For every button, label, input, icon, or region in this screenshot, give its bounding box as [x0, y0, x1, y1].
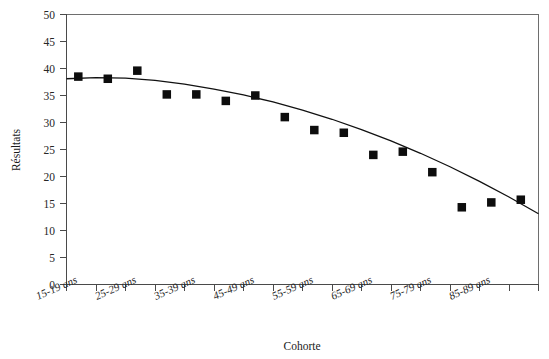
x-tick-label: 45-49 ans — [211, 273, 256, 302]
y-tick-label: 45 — [44, 36, 56, 48]
y-tick-label: 20 — [44, 171, 56, 183]
scatter-marker — [104, 75, 113, 84]
x-tick-label: 75-79 ans — [388, 273, 433, 302]
x-tick-label: 65-69 ans — [329, 273, 374, 302]
x-tick-label: 15-19 ans — [34, 273, 79, 302]
scatter-marker — [369, 151, 378, 160]
scatter-marker — [340, 129, 349, 138]
scatter-marker — [192, 90, 201, 99]
scatter-marker — [74, 72, 83, 81]
scatter-marker — [222, 97, 231, 106]
y-tick-label: 40 — [44, 63, 56, 75]
scatter-marker — [251, 91, 259, 100]
scatter-marker-group — [74, 66, 525, 211]
y-tick-label: 50 — [44, 9, 56, 21]
y-tick-label: 15 — [44, 198, 56, 210]
chart-svg: 50 45 40 35 30 25 20 15 10 5 0 Résultats — [0, 0, 549, 359]
scatter-marker — [281, 113, 290, 122]
scatter-marker — [163, 90, 172, 99]
x-axis-title: Cohorte — [283, 340, 320, 352]
x-tick-label: 35-39 ans — [151, 273, 197, 302]
plot-frame — [66, 15, 539, 285]
x-axis-category-labels: 15-19 ans 25-29 ans 35-39 ans 45-49 ans … — [34, 273, 492, 302]
scatter-marker — [517, 195, 526, 204]
y-tick-label: 5 — [49, 252, 55, 264]
scatter-marker — [428, 168, 437, 177]
trend-curve — [67, 78, 539, 214]
y-axis-tick-labels: 50 45 40 35 30 25 20 15 10 5 0 — [44, 9, 56, 291]
scatter-marker — [399, 147, 408, 156]
y-tick-label: 25 — [44, 144, 56, 156]
x-axis: 15-19 ans 25-29 ans 35-39 ans 45-49 ans … — [34, 273, 539, 352]
scatter-marker — [310, 126, 319, 135]
scatter-marker — [133, 66, 142, 75]
y-axis: 50 45 40 35 30 25 20 15 10 5 0 Résultats — [10, 9, 67, 291]
y-tick-label: 30 — [44, 117, 56, 129]
y-tick-label: 35 — [44, 90, 56, 102]
x-tick-label: 55-59 ans — [270, 273, 315, 302]
y-axis-title: Résultats — [10, 128, 22, 171]
x-tick-label: 25-29 ans — [93, 273, 138, 302]
y-tick-label: 10 — [44, 225, 56, 237]
chart-container: 50 45 40 35 30 25 20 15 10 5 0 Résultats — [0, 0, 549, 359]
y-axis-ticks — [60, 15, 67, 285]
scatter-marker — [458, 203, 467, 212]
x-tick-label: 85-89 ans — [447, 273, 492, 302]
scatter-marker — [487, 198, 496, 207]
